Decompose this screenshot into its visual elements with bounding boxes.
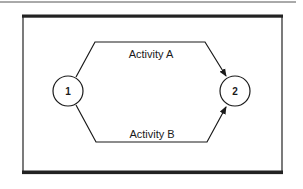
diagram-canvas: Activity A Activity B 1 2: [0, 0, 303, 189]
node-2: 2: [220, 76, 250, 106]
node-2-label: 2: [232, 86, 238, 97]
activity-network-figure: Activity A Activity B 1 2: [0, 0, 303, 189]
node-1: 1: [53, 76, 83, 106]
edge-activity-a: Activity A: [76, 42, 226, 77]
edge-activity-b-label: Activity B: [129, 128, 174, 140]
node-1-label: 1: [65, 86, 71, 97]
frame-top-border: [22, 15, 283, 18]
frame-bottom-border: [22, 171, 283, 175]
edge-activity-a-label: Activity A: [129, 48, 174, 60]
edge-activity-b: Activity B: [76, 105, 226, 142]
